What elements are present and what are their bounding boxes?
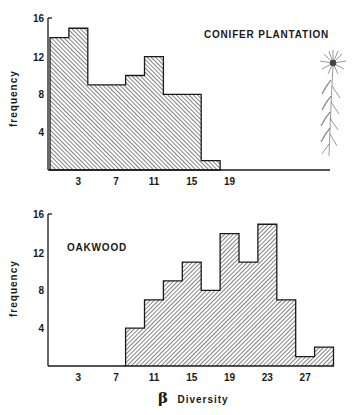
y-tick-label: 8 <box>38 285 44 296</box>
oakwood-y-ticks: 481216 <box>33 209 45 334</box>
conifer-y-label: frequency <box>8 70 19 127</box>
x-tick-label: 23 <box>262 372 274 383</box>
oakwood-y-label: frequency <box>8 260 19 317</box>
flower-illustration <box>320 50 346 156</box>
x-tick-label: 15 <box>186 372 198 383</box>
x-tick-label: 15 <box>186 176 198 187</box>
y-tick-label: 4 <box>38 323 44 334</box>
oakwood-bars <box>126 224 334 366</box>
histogram-bars <box>126 224 334 366</box>
x-tick-label: 3 <box>76 372 82 383</box>
x-tick-label: 11 <box>149 176 160 187</box>
y-tick-label: 16 <box>33 13 45 24</box>
y-tick-label: 12 <box>33 52 45 63</box>
beta-symbol: β <box>158 389 168 407</box>
x-tick-label: 7 <box>113 372 119 383</box>
conifer-x-ticks: 37111519 <box>76 176 236 187</box>
conifer-histogram: 481216 37111519 CONIFER PLANTATION frequ… <box>8 13 346 187</box>
y-tick-label: 16 <box>33 209 45 220</box>
diversity-label: Diversity <box>177 394 228 405</box>
x-tick-label: 3 <box>76 176 82 187</box>
x-axis-title: β Diversity <box>158 389 229 407</box>
x-tick-label: 27 <box>300 372 312 383</box>
figure: 481216 37111519 CONIFER PLANTATION frequ… <box>0 0 359 415</box>
histogram-bars <box>50 28 220 170</box>
y-tick-label: 8 <box>38 89 44 100</box>
x-tick-label: 19 <box>224 372 236 383</box>
conifer-y-ticks: 481216 <box>33 13 45 138</box>
x-tick-label: 19 <box>224 176 236 187</box>
oakwood-title: OAKWOOD <box>67 242 127 253</box>
conifer-title: CONIFER PLANTATION <box>204 29 329 40</box>
x-tick-label: 11 <box>149 372 160 383</box>
oakwood-x-ticks: 371115192327 <box>76 372 312 383</box>
y-tick-label: 12 <box>33 248 45 259</box>
x-tick-label: 7 <box>113 176 119 187</box>
y-tick-label: 4 <box>38 127 44 138</box>
conifer-bars <box>50 28 220 170</box>
oakwood-histogram: 481216 371115192327 OAKWOOD frequency β … <box>8 209 334 407</box>
